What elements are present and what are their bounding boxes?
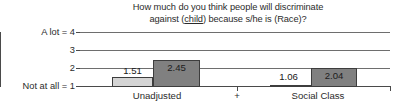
x-axis-tick-right (390, 86, 391, 91)
chart-title: How much do you think people will discri… (63, 1, 393, 26)
bar-social-class-light (270, 85, 311, 87)
gridline-value-3 (80, 50, 390, 51)
y-axis-line (0, 32, 1, 87)
bar-chart-figure: How much do you think people will discri… (0, 0, 406, 106)
bar-value-social-class-dark: 2.04 (311, 71, 357, 81)
chart-title-underlined-word: child (184, 14, 203, 24)
y-tick-label-4: A lot = 4 (41, 27, 75, 37)
chart-title-line-1: How much do you think people will discri… (63, 1, 393, 13)
x-axis-label-social-class: Social Class (268, 90, 368, 101)
gridline-value-4 (80, 32, 390, 33)
x-axis-label-separator: + (222, 90, 252, 101)
chart-title-line-2: against (child) because s/he is (Race)? (63, 13, 393, 25)
x-axis-label-unadjusted: Unadjusted (112, 90, 202, 101)
y-axis-labels: A lot = 4 3 2 Not at all = 1 (0, 0, 75, 106)
plot-area: 1.51 2.45 1.06 2.04 (80, 32, 390, 86)
bar-value-unadjusted-dark: 2.45 (153, 63, 200, 73)
bar-unadjusted-light (112, 77, 153, 87)
y-tick-label-2: 2 (70, 63, 75, 73)
y-tick-label-3: 3 (70, 45, 75, 55)
bar-value-social-class-light: 1.06 (268, 72, 309, 82)
y-tick-label-1: Not at all = 1 (23, 81, 75, 91)
bar-value-unadjusted-light: 1.51 (112, 66, 153, 76)
